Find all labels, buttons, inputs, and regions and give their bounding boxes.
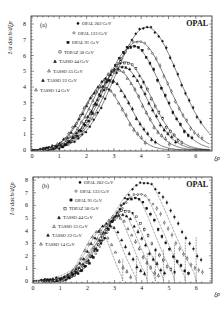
marker-circle-icon	[196, 116, 198, 118]
x-tick-label: 4	[140, 285, 143, 291]
marker-circle-icon	[125, 202, 127, 204]
marker-square-icon	[149, 62, 151, 64]
marker-triangle-icon	[140, 136, 142, 138]
marker-square-icon	[116, 65, 118, 67]
marker-square-icon	[155, 249, 157, 251]
marker-triangle-icon	[88, 108, 90, 110]
marker-circle-icon	[137, 194, 139, 196]
marker-circle-icon	[171, 234, 173, 236]
x-tick-label: 3	[112, 153, 115, 159]
marker-circle-icon	[171, 90, 173, 92]
marker-circle-icon	[98, 105, 100, 107]
marker-square-icon	[82, 127, 84, 129]
marker-triangle-icon	[71, 126, 73, 128]
marker-circle-icon	[165, 47, 167, 49]
marker-triangle-icon	[35, 88, 38, 91]
marker-circle-icon	[131, 39, 133, 41]
marker-square-icon	[150, 98, 152, 100]
marker-square-icon	[123, 203, 125, 205]
marker-circle-icon	[158, 36, 160, 38]
marker-square-icon	[131, 198, 133, 200]
marker-triangle-icon	[159, 124, 161, 126]
marker-circle-icon	[144, 42, 146, 44]
marker-circle-icon	[181, 231, 183, 233]
y-tick-label: 8	[25, 177, 28, 183]
marker-circle-icon	[154, 32, 156, 34]
marker-circle-icon	[174, 101, 176, 103]
marker-circle-icon	[81, 134, 83, 136]
marker-triangle-icon	[48, 69, 51, 72]
y-tick-label: 3	[23, 100, 26, 106]
marker-square-icon	[127, 62, 129, 64]
marker-square-icon	[117, 213, 119, 215]
marker-circle-icon	[202, 271, 204, 273]
legend-entry: OPAL 133 GeV	[78, 31, 108, 36]
marker-triangle-icon	[40, 243, 43, 246]
marker-square-icon	[143, 81, 145, 83]
marker-square-icon	[128, 211, 130, 213]
marker-circle-icon	[148, 199, 150, 201]
marker-triangle-icon	[117, 231, 119, 233]
marker-triangle-icon	[141, 237, 143, 239]
marker-triangle-icon	[112, 80, 114, 82]
legend-entry: TASSO 35 GeV	[58, 224, 88, 229]
marker-square-icon	[151, 243, 153, 245]
marker-triangle-icon	[87, 259, 89, 261]
marker-triangle-icon	[66, 137, 68, 139]
x-tick-label: 0	[32, 285, 35, 291]
marker-triangle-icon	[95, 247, 97, 249]
y-tick-label: 0	[25, 278, 28, 284]
marker-square-icon	[124, 211, 126, 213]
marker-circle-icon	[163, 75, 165, 77]
marker-square-icon	[176, 261, 178, 263]
marker-circle-icon	[128, 194, 130, 196]
marker-triangle-icon	[53, 225, 56, 228]
marker-square-icon	[153, 219, 155, 221]
marker-square-icon	[170, 130, 172, 132]
marker-circle-icon	[136, 41, 138, 43]
marker-square-icon	[139, 75, 141, 77]
marker-triangle-icon	[126, 77, 128, 79]
marker-triangle-icon	[146, 261, 148, 263]
marker-square-icon	[140, 223, 142, 225]
marker-circle-icon	[140, 41, 142, 43]
marker-square-icon	[161, 236, 163, 238]
marker-circle-icon	[150, 26, 152, 28]
marker-square-icon	[170, 269, 172, 271]
marker-triangle-icon	[73, 134, 75, 136]
marker-triangle-icon	[122, 266, 124, 268]
marker-triangle-icon	[171, 136, 173, 138]
marker-square-icon	[92, 113, 94, 115]
marker-triangle-icon	[124, 95, 126, 97]
marker-triangle-icon	[127, 227, 129, 229]
marker-triangle-icon	[120, 89, 122, 91]
y-axis-label: 1/σ dσch/dξp	[8, 181, 16, 215]
fit-curve	[32, 41, 209, 150]
marker-triangle-icon	[130, 82, 132, 84]
marker-triangle-icon	[82, 113, 84, 115]
marker-triangle-icon	[143, 272, 145, 274]
marker-triangle-icon	[107, 237, 109, 239]
marker-square-icon	[70, 199, 72, 201]
marker-circle-icon	[188, 100, 190, 102]
y-tick-label: 3	[25, 240, 28, 246]
marker-square-icon	[154, 105, 156, 107]
panel-a: 0123456012345678ξp1/σ dσch/dξpOPAL(a)OPA…	[6, 16, 221, 162]
marker-circle-icon	[186, 257, 188, 259]
marker-square-icon	[142, 201, 144, 203]
marker-circle-icon	[139, 182, 141, 184]
y-tick-label: 4	[23, 84, 26, 90]
legend-entry: TASSO 14 GeV	[45, 242, 75, 247]
legend: OPAL 202 GeVOPAL 133 GeVOPAL 91 GeVTOPAZ…	[35, 21, 112, 93]
marker-square-icon	[180, 124, 182, 126]
marker-triangle-icon	[104, 225, 106, 227]
marker-triangle-icon	[129, 123, 131, 125]
marker-triangle-icon	[92, 99, 94, 101]
marker-triangle-icon	[131, 234, 133, 236]
marker-triangle-icon	[157, 131, 159, 133]
marker-circle-icon	[162, 40, 164, 42]
marker-triangle-icon	[136, 132, 138, 134]
marker-circle-icon	[106, 232, 108, 234]
x-axis-label: ξp	[214, 290, 221, 298]
marker-circle-icon	[151, 183, 153, 185]
